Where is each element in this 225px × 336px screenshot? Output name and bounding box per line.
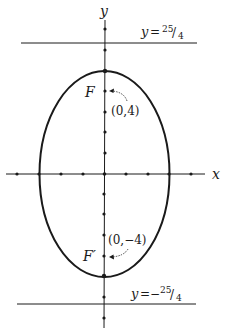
y-axis-label: y <box>99 3 109 19</box>
focus-f-label: F <box>84 84 96 100</box>
x-axis-label: x <box>212 166 220 182</box>
arrowhead-icon <box>109 255 114 260</box>
svg-text:/: / <box>172 26 177 40</box>
focus-f-prime-arrow <box>112 249 128 257</box>
focus-f-coords: (0,4) <box>111 104 139 118</box>
svg-text:=: = <box>150 25 160 39</box>
svg-text:/: / <box>170 288 175 302</box>
directrix-top-den: 4 <box>178 31 184 41</box>
directrix-bottom-den: 4 <box>176 293 182 303</box>
svg-text:y: y <box>130 286 139 301</box>
focus-f-arrow <box>112 91 127 101</box>
directrix-top-label: y = 25 / 4 <box>140 24 184 41</box>
directrix-bottom-sign: − <box>150 287 160 301</box>
svg-text:=: = <box>140 287 150 301</box>
svg-text:y: y <box>140 24 149 39</box>
focus-f-prime-label: F′ <box>82 248 97 264</box>
focus-f-prime-coords: (0,−4) <box>108 233 147 247</box>
arrowhead-icon <box>109 89 114 94</box>
ellipse-diagram: y x y = 25 / 4 y = − 25 / 4 F (0,4) F′ (… <box>0 0 225 336</box>
directrix-bottom-label: y = − 25 / 4 <box>130 285 182 303</box>
